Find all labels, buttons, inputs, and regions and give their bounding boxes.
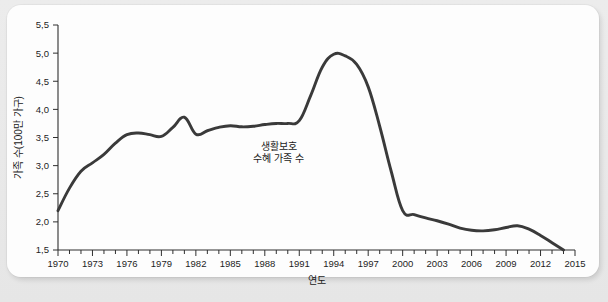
annotation-line: 수혜 가족 수 <box>253 153 304 164</box>
y-tick-label: 3,5 <box>36 132 49 143</box>
x-tick-label: 1991 <box>289 258 310 269</box>
annotation-line: 생활보호 <box>261 140 297 152</box>
x-tick-label: 1976 <box>116 258 137 269</box>
x-tick-label: 1994 <box>323 258 344 269</box>
x-tick-label: 2003 <box>427 258 448 269</box>
x-tick-label: 2012 <box>530 258 551 269</box>
series-path <box>58 53 564 250</box>
axis-lines <box>58 25 575 250</box>
x-tick-label: 1973 <box>82 258 103 269</box>
x-tick-label: 2009 <box>495 258 516 269</box>
x-tick-label: 2006 <box>461 258 482 269</box>
x-tick-label: 1982 <box>185 258 206 269</box>
x-tick-label: 1988 <box>254 258 275 269</box>
x-tick-label: 2015 <box>564 258 585 269</box>
y-tick-label: 5,5 <box>36 19 49 30</box>
y-tick-label: 5,0 <box>36 48 49 59</box>
y-tick-label: 3,0 <box>36 160 49 171</box>
x-tick-label: 2000 <box>392 258 413 269</box>
x-axis-title: 연도 <box>308 275 326 286</box>
y-tick-label: 4,5 <box>36 76 49 87</box>
y-tick-label: 4,0 <box>36 104 49 115</box>
x-tick-label: 1997 <box>358 258 379 269</box>
series-group <box>58 53 564 250</box>
y-axis-ticks: 1,52,02,53,03,54,04,55,05,5 <box>36 19 58 255</box>
line-chart: 1,52,02,53,03,54,04,55,05,5 197019731976… <box>0 0 608 302</box>
x-tick-label: 1979 <box>151 258 172 269</box>
y-tick-label: 2,0 <box>36 216 49 227</box>
y-tick-label: 1,5 <box>36 244 49 255</box>
x-tick-label: 1970 <box>47 258 68 269</box>
x-tick-label: 1985 <box>220 258 241 269</box>
x-axis-ticks: 1970197319761979198219851988199119941997… <box>47 250 585 269</box>
annotation-group: 생활보호수혜 가족 수 <box>253 140 304 165</box>
y-axis-title: 가족 수(100만 가구) <box>13 96 24 179</box>
chart-page: 1,52,02,53,03,54,04,55,05,5 197019731976… <box>0 0 608 302</box>
y-tick-label: 2,5 <box>36 188 49 199</box>
